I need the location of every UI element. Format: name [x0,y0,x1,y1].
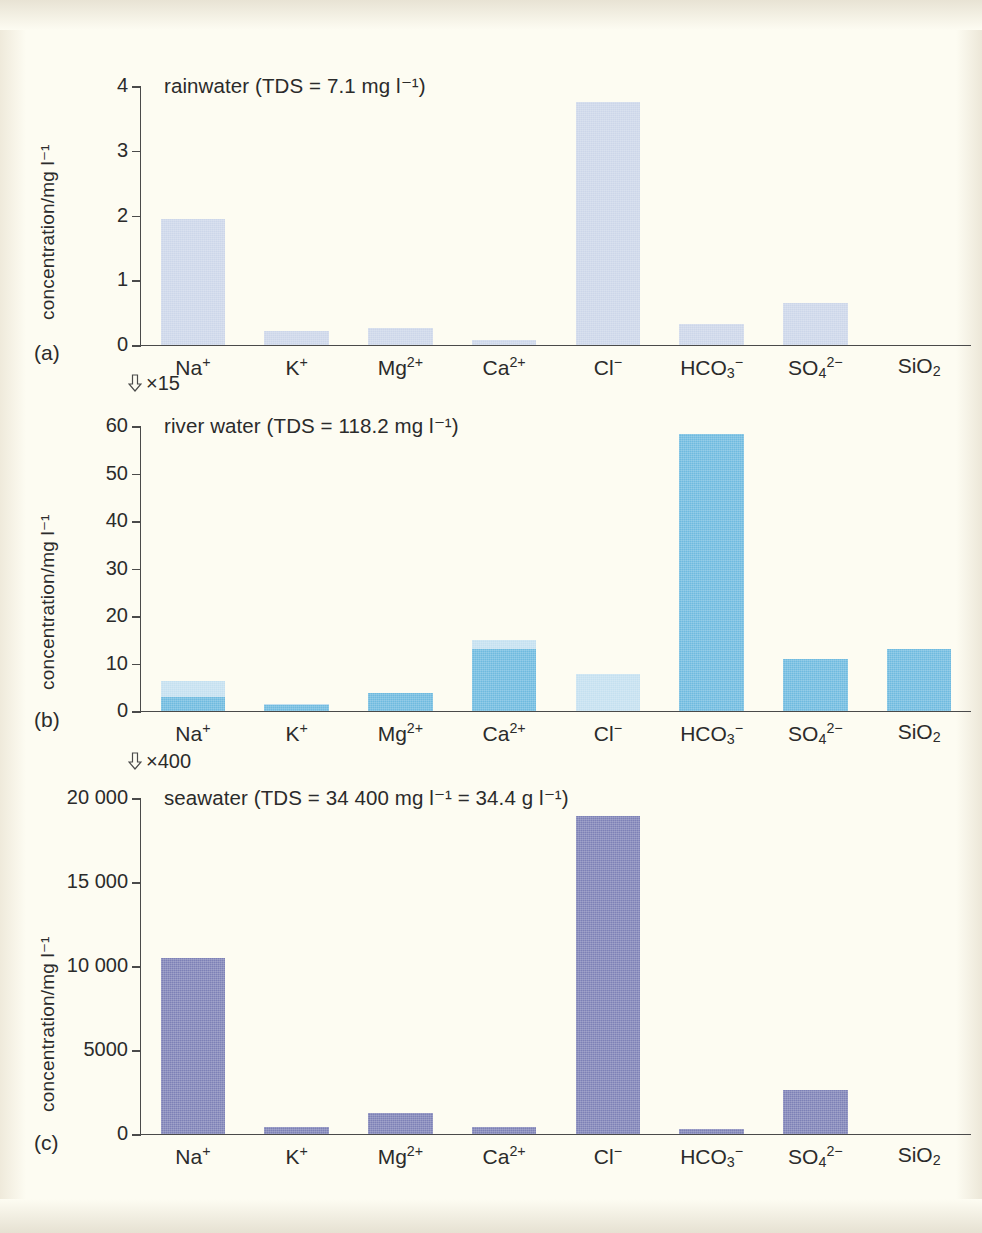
bar-category-HCO3: HCO3− [660,798,764,1134]
bar-category-Mg2: Mg2+ [349,426,453,711]
bar-category-K: K+ [245,426,349,711]
y-axis-tick [132,966,141,968]
bar[interactable] [368,693,432,711]
bar-segment [161,681,225,697]
x-axis-tick-label: Na+ [175,354,210,380]
bar[interactable] [887,649,951,711]
x-axis-tick-label: Ca2+ [483,1143,526,1169]
bar-segment [783,659,847,711]
bar[interactable] [264,704,328,711]
y-axis-tick-label: 3 [117,139,128,162]
bar-category-K: K+ [245,798,349,1134]
bar-category-SO42: SO42− [764,86,868,345]
bar[interactable] [368,328,432,345]
bar[interactable] [161,958,225,1134]
bar-segment [161,697,225,711]
y-axis-tick-label: 15 000 [67,870,128,893]
bar[interactable] [576,102,640,345]
bar[interactable] [472,640,536,711]
bar-category-HCO3: HCO3− [660,426,764,711]
bar[interactable] [783,659,847,711]
panel-tag: (b) [34,708,60,732]
x-axis-tick-label: Mg2+ [378,720,423,746]
bar-group: Na+K+Mg2+Ca2+Cl−HCO3−SO42−SiO2 [141,426,971,711]
bar-segment [264,704,328,711]
x-axis-tick-label: SiO2 [898,1143,941,1168]
x-axis-tick-label: Cl− [594,720,622,746]
x-axis-tick-label: K+ [285,720,307,746]
bar-segment [368,328,432,345]
bar-segment [368,693,432,711]
y-axis-tick-label: 20 000 [67,786,128,809]
y-axis-tick [132,1134,141,1136]
bar-group: Na+K+Mg2+Ca2+Cl−HCO3−SO42−SiO2 [141,86,971,345]
y-axis-tick [132,86,141,88]
y-axis-tick [132,216,141,218]
scale-note-note-b-to-c: ×400 [128,750,191,773]
bar[interactable] [679,324,743,345]
y-axis-label: concentration/mg l⁻¹ [36,936,59,1112]
y-axis-tick [132,882,141,884]
x-axis-tick-label: Na+ [175,720,210,746]
bar-segment [887,649,951,711]
bar-segment [679,434,743,711]
bar[interactable] [264,331,328,345]
bar-segment [264,1127,328,1134]
bar-category-Cl: Cl− [556,86,660,345]
x-axis-tick-label: Cl− [594,354,622,380]
bar-segment [472,340,536,345]
bar-category-Ca2: Ca2+ [452,798,556,1134]
bar-segment [161,219,225,345]
x-axis-tick-label: SiO2 [898,354,941,379]
bar[interactable] [472,1127,536,1134]
bar[interactable] [576,674,640,711]
x-axis-tick-label: Na+ [175,1143,210,1169]
y-axis-tick-label: 5000 [84,1038,129,1061]
x-axis-tick-label: SO42− [788,354,843,381]
y-axis-tick [132,345,141,347]
bar-category-Na: Na+ [141,798,245,1134]
bar[interactable] [264,1127,328,1134]
bar-category-Ca2: Ca2+ [452,86,556,345]
bar[interactable] [679,1129,743,1134]
bar-segment [679,1129,743,1134]
bar-segment [368,1113,432,1134]
bar[interactable] [368,1113,432,1134]
y-axis-tick-label: 1 [117,268,128,291]
bar[interactable] [161,681,225,711]
bar-category-Na: Na+ [141,426,245,711]
bar-category-Mg2: Mg2+ [349,86,453,345]
bar[interactable] [783,1090,847,1134]
y-axis-tick-label: 40 [106,509,128,532]
y-axis-tick-label: 2 [117,204,128,227]
bar[interactable] [576,816,640,1134]
bar-category-SO42: SO42− [764,798,868,1134]
bar[interactable] [679,434,743,711]
x-axis-tick-label: Ca2+ [483,720,526,746]
bar[interactable] [472,340,536,345]
bar-category-SO42: SO42− [764,426,868,711]
bar[interactable] [783,303,847,345]
y-axis-tick-label: 50 [106,462,128,485]
y-axis-tick [132,521,141,523]
y-axis-tick [132,280,141,282]
bar-category-SiO2: SiO2 [867,426,971,711]
bar-category-K: K+ [245,86,349,345]
bar-segment [576,102,640,345]
x-axis-tick-label: K+ [285,354,307,380]
y-axis-tick [132,151,141,153]
y-axis-tick-label: 0 [117,333,128,356]
bar-segment [264,331,328,345]
plot-area: 0102030405060Na+K+Mg2+Ca2+Cl−HCO3−SO42−S… [140,426,971,712]
bar-category-Cl: Cl− [556,798,660,1134]
x-axis-tick-label: SO42− [788,1143,843,1170]
bar-segment [576,816,640,1134]
x-axis-tick-label: SO42− [788,720,843,747]
scale-note-note-a-to-b: ×15 [128,372,180,395]
x-axis-tick-label: HCO3− [680,1143,743,1170]
bar-segment [576,674,640,711]
bar[interactable] [161,219,225,345]
y-axis-tick-label: 0 [117,1122,128,1145]
scale-note-label: ×400 [146,750,191,773]
y-axis-tick-label: 30 [106,557,128,580]
